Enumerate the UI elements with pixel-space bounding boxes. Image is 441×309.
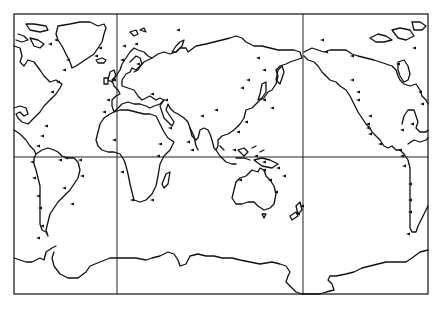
station-marker-icon [256, 57, 260, 60]
station-marker-icon [246, 79, 250, 82]
south-america-coast [34, 148, 80, 236]
station-marker-icon [80, 175, 84, 178]
station-marker-icon [106, 99, 110, 102]
station-marker-icon [406, 233, 410, 236]
station-marker-icon [176, 29, 180, 32]
station-marker-icon [48, 43, 52, 46]
north-america-east-coast [14, 46, 62, 124]
station-marker-icon [134, 43, 138, 46]
antarctica-coast [14, 246, 428, 294]
station-marker-icon [378, 143, 382, 146]
station-marker-icon [32, 177, 36, 180]
new-zealand-coast [290, 202, 302, 220]
map-frame [14, 14, 428, 294]
station-marker-icon [200, 115, 204, 118]
station-marker-icon [270, 107, 274, 110]
caribbean-coast [408, 138, 428, 144]
map-canvas [0, 0, 441, 309]
station-marker-icon [356, 99, 360, 102]
station-marker-icon [150, 199, 154, 202]
station-marker-icon [186, 141, 190, 144]
station-marker-icon [168, 127, 172, 130]
station-marker-icon [350, 79, 354, 82]
station-marker-icon [62, 187, 66, 190]
station-marker-icon [54, 39, 58, 42]
iceland-coast [96, 58, 106, 63]
station-marker-icon [356, 91, 360, 94]
station-marker-icon [102, 111, 106, 114]
station-marker-icon [130, 199, 134, 202]
station-marker-icon [412, 47, 416, 50]
australia-coast [232, 168, 276, 210]
africa-coast [96, 110, 174, 202]
canadian-arctic-islands-coast [370, 22, 426, 42]
tasmania-coast [262, 214, 266, 218]
novaya-zemlya-coast [172, 40, 184, 52]
north-america-west-coast [304, 56, 400, 150]
station-marker-icon [262, 69, 266, 72]
station-marker-icon [94, 55, 98, 58]
arctic-islands-coast [16, 24, 48, 48]
station-marker-icon [320, 39, 324, 42]
station-marker-icon [158, 143, 162, 146]
station-marker-icon [190, 149, 194, 152]
station-marker-icon [136, 63, 140, 66]
station-marker-icon [398, 149, 402, 152]
station-marker-icon [58, 159, 62, 162]
station-marker-icon [62, 69, 66, 72]
station-marker-icon [44, 125, 48, 128]
svalbard-coast [130, 28, 146, 36]
world-map [0, 0, 441, 309]
station-marker-icon [36, 195, 40, 198]
station-marker-icon [420, 103, 424, 106]
station-marker-icon [36, 145, 40, 148]
south-america-west-coast [400, 150, 428, 232]
station-marker-icon [366, 127, 370, 130]
station-marker-icon [40, 135, 44, 138]
gulf-of-mexico-coast [402, 110, 428, 132]
station-marker-icon [276, 167, 280, 170]
station-marker-icon [244, 121, 248, 124]
station-marker-icon [236, 131, 240, 134]
station-marker-icon [120, 59, 124, 62]
station-marker-icon [164, 99, 168, 102]
station-marker-icon [78, 159, 82, 162]
greenland-coast [56, 22, 106, 68]
station-marker-icon [282, 175, 286, 178]
station-marker-icon [350, 55, 354, 58]
station-marker-icon [122, 45, 126, 48]
station-marker-icon [410, 123, 414, 126]
station-marker-icon [368, 115, 372, 118]
station-marker-icon [232, 149, 236, 152]
madagascar-coast [162, 172, 170, 188]
station-marker-icon [150, 93, 154, 96]
station-marker-icon [240, 87, 244, 90]
station-marker-icon [112, 139, 116, 142]
station-marker-icon [120, 171, 124, 174]
station-marker-icon [400, 129, 404, 132]
station-marker-icon [214, 109, 218, 112]
station-marker-icon [368, 133, 372, 136]
asia-coast [152, 36, 302, 150]
station-marker-icon [70, 203, 74, 206]
station-marker-icon [30, 161, 34, 164]
station-marker-icon [36, 237, 40, 240]
central-america-coast [14, 130, 36, 154]
station-marker-icon [402, 165, 406, 168]
station-marker-icon [50, 91, 54, 94]
station-marker-icon [262, 161, 266, 164]
